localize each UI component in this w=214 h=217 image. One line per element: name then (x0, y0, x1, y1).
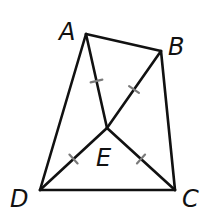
segment-bc (161, 51, 175, 190)
point-label-a: A (57, 18, 75, 46)
congruence-tick-ae (91, 80, 103, 83)
point-label-e: E (96, 144, 112, 172)
point-label-b: B (168, 33, 184, 61)
geometry-diagram: A B C D E (0, 0, 214, 217)
point-label-c: C (182, 185, 199, 213)
point-label-d: D (10, 185, 28, 213)
congruence-tick-be (129, 86, 139, 93)
segment-da (40, 34, 86, 190)
segment-ab (86, 34, 161, 51)
